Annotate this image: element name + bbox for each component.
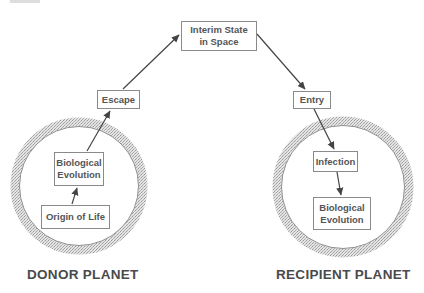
recipient-planet — [277, 121, 409, 253]
arrow-interim-to-entry — [257, 34, 305, 89]
recipient-biological-evolution-box: Biological Evolution — [313, 197, 371, 230]
infection-box: Infection — [313, 151, 358, 172]
donor-planet-label: DONOR PLANET — [27, 267, 139, 282]
donor-biological-evolution-box: Biological Evolution — [54, 152, 104, 186]
interim-state-box: Interim State in Space — [181, 21, 257, 51]
origin-of-life-box: Origin of Life — [41, 205, 110, 229]
escape-box: Escape — [97, 90, 140, 109]
arrow-escape-to-interim — [123, 35, 179, 89]
donor-planet — [15, 122, 143, 250]
recipient-planet-label: RECIPIENT PLANET — [276, 267, 411, 282]
entry-box: Entry — [293, 91, 331, 109]
